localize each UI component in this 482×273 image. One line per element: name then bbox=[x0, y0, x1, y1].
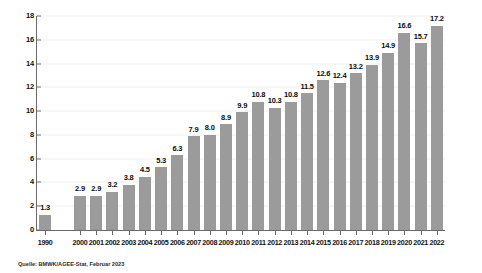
bar[interactable] bbox=[317, 80, 329, 230]
bar-slot[interactable]: 10.3 bbox=[269, 16, 281, 230]
bar-chart: 024681012141618 1.32.92.93.23.84.55.36.3… bbox=[0, 0, 482, 273]
x-axis-tick-label: 2008 bbox=[202, 238, 217, 247]
bar-value-label: 13.2 bbox=[349, 63, 363, 71]
bar-slot[interactable]: 6.3 bbox=[171, 16, 183, 230]
bar-value-label: 15.7 bbox=[414, 33, 428, 41]
x-axis-tick-label: 1990 bbox=[38, 238, 53, 247]
bar-value-label: 12.6 bbox=[316, 70, 330, 78]
bar-slot[interactable]: 17.2 bbox=[431, 16, 443, 230]
x-axis-tick-mark bbox=[404, 231, 405, 235]
bar-slot[interactable]: 2.9 bbox=[74, 16, 86, 230]
x-axis-tick-mark bbox=[437, 231, 438, 235]
bar-slot[interactable]: 5.3 bbox=[155, 16, 167, 230]
bar-slot[interactable]: 9.9 bbox=[236, 16, 248, 230]
bar-slot[interactable]: 16.6 bbox=[398, 16, 410, 230]
bar-slot[interactable]: 13.2 bbox=[350, 16, 362, 230]
x-axis-tick-label: 2007 bbox=[186, 238, 201, 247]
bar-slot[interactable]: 10.8 bbox=[252, 16, 264, 230]
x-axis-tick-label: 2019 bbox=[381, 238, 396, 247]
bar-slot[interactable]: 8.9 bbox=[220, 16, 232, 230]
bar-slot[interactable]: 2.9 bbox=[90, 16, 102, 230]
bar-slot[interactable]: 7.9 bbox=[188, 16, 200, 230]
bar[interactable] bbox=[301, 93, 313, 230]
bar[interactable] bbox=[39, 215, 51, 230]
x-axis-tick-mark bbox=[340, 231, 341, 235]
bar[interactable] bbox=[139, 177, 151, 231]
x-axis-tick-label: 2004 bbox=[137, 238, 152, 247]
bar-slot[interactable]: 1.3 bbox=[39, 16, 51, 230]
x-axis-tick-mark bbox=[421, 231, 422, 235]
bar[interactable] bbox=[431, 26, 443, 230]
x-axis-tick-mark bbox=[80, 231, 81, 235]
x-axis-tick-label: 2014 bbox=[300, 238, 315, 247]
x-axis-tick-label: 2011 bbox=[251, 238, 265, 247]
x-axis-tick-label: 2015 bbox=[316, 238, 331, 247]
x-axis-tick-mark bbox=[112, 231, 113, 235]
bar-value-label: 2.9 bbox=[91, 185, 101, 193]
x-axis-tick-mark bbox=[161, 231, 162, 235]
bar-value-label: 6.3 bbox=[172, 145, 182, 153]
bar[interactable] bbox=[74, 196, 86, 230]
bar[interactable] bbox=[269, 108, 281, 230]
x-axis-tick-mark bbox=[372, 231, 373, 235]
bar-slot[interactable]: 3.8 bbox=[123, 16, 135, 230]
bar-slot[interactable]: 3.2 bbox=[106, 16, 118, 230]
x-axis-tick-label: 2021 bbox=[413, 238, 428, 247]
x-axis-tick-mark bbox=[242, 231, 243, 235]
bar[interactable] bbox=[204, 135, 216, 230]
bar[interactable] bbox=[285, 102, 297, 230]
x-axis-tick-mark bbox=[177, 231, 178, 235]
bar-slot[interactable]: 14.9 bbox=[382, 16, 394, 230]
x-axis-line bbox=[36, 230, 445, 231]
x-axis-tick-label: 2012 bbox=[267, 238, 282, 247]
bar[interactable] bbox=[90, 196, 102, 230]
bar-value-label: 4.5 bbox=[140, 166, 150, 174]
bar[interactable] bbox=[366, 65, 378, 230]
bar-value-label: 10.3 bbox=[268, 97, 282, 105]
x-axis-tick-mark bbox=[45, 231, 46, 235]
bar-value-label: 10.8 bbox=[252, 91, 266, 99]
bar-slot[interactable]: 10.8 bbox=[285, 16, 297, 230]
bar-series: 1.32.92.93.23.84.55.36.37.98.08.99.910.8… bbox=[37, 16, 445, 230]
bar[interactable] bbox=[398, 33, 410, 230]
bar-value-label: 8.9 bbox=[221, 114, 231, 122]
bar-slot[interactable]: 15.7 bbox=[415, 16, 427, 230]
bar-value-label: 7.9 bbox=[189, 126, 199, 134]
x-axis-tick-label: 2000 bbox=[73, 238, 88, 247]
bar[interactable] bbox=[382, 53, 394, 230]
bar[interactable] bbox=[171, 155, 183, 230]
bar[interactable] bbox=[155, 167, 167, 230]
bar-slot[interactable]: 11.5 bbox=[301, 16, 313, 230]
x-axis-tick-label: 2009 bbox=[219, 238, 234, 247]
bar-value-label: 2.9 bbox=[75, 185, 85, 193]
bar-slot[interactable]: 4.5 bbox=[139, 16, 151, 230]
x-axis-tick-label: 2020 bbox=[397, 238, 412, 247]
bar[interactable] bbox=[350, 73, 362, 230]
bar[interactable] bbox=[188, 136, 200, 230]
bar-slot[interactable]: 13.9 bbox=[366, 16, 378, 230]
bar-value-label: 11.5 bbox=[300, 83, 313, 91]
x-axis-tick-mark bbox=[145, 231, 146, 235]
x-axis-tick-mark bbox=[194, 231, 195, 235]
x-axis-tick-label: 2002 bbox=[105, 238, 120, 247]
x-axis-tick-label: 2016 bbox=[332, 238, 347, 247]
x-axis-tick-mark bbox=[323, 231, 324, 235]
bar[interactable] bbox=[220, 124, 232, 230]
bar-slot[interactable]: 12.6 bbox=[317, 16, 329, 230]
bar[interactable] bbox=[123, 185, 135, 230]
x-axis-tick-label: 2017 bbox=[348, 238, 363, 247]
bar[interactable] bbox=[252, 102, 264, 230]
bar[interactable] bbox=[236, 112, 248, 230]
y-axis-tick-label: 2 bbox=[0, 202, 34, 210]
bar[interactable] bbox=[334, 83, 346, 230]
x-axis-tick-label: 2005 bbox=[154, 238, 169, 247]
bar[interactable] bbox=[106, 192, 118, 230]
y-axis-tick-label: 8 bbox=[0, 131, 34, 139]
bar[interactable] bbox=[415, 43, 427, 230]
y-axis-tick-label: 4 bbox=[0, 179, 34, 187]
bar-value-label: 5.3 bbox=[156, 157, 166, 165]
bar-value-label: 12.4 bbox=[333, 72, 347, 80]
x-axis-tick-label: 2018 bbox=[365, 238, 380, 247]
bar-slot[interactable]: 12.4 bbox=[334, 16, 346, 230]
bar-slot[interactable]: 8.0 bbox=[204, 16, 216, 230]
